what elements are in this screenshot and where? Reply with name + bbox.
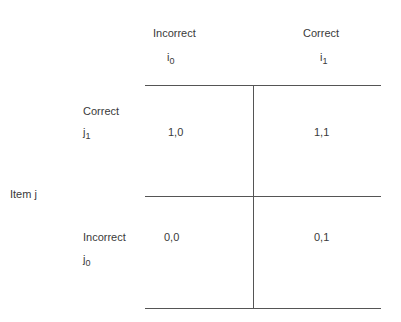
column-header-correct: Correct — [303, 27, 339, 39]
cell-0-0: 0,0 — [164, 231, 179, 243]
column-symbol-i0: i0 — [167, 51, 174, 66]
row-header-incorrect: Incorrect — [83, 231, 126, 243]
subscript-text: 0 — [169, 56, 174, 66]
grid-line-vertical — [253, 85, 254, 309]
row-header-correct: Correct — [83, 105, 119, 117]
row-symbol-j1: j1 — [83, 126, 90, 141]
subscript-text: 0 — [85, 258, 90, 268]
subscript-text: 1 — [322, 56, 327, 66]
cell-0-1: 0,1 — [314, 231, 329, 243]
grid-line-top — [145, 85, 381, 86]
row-axis-label: Item j — [10, 188, 37, 200]
grid-line-bottom — [145, 308, 381, 309]
row-symbol-j0: j0 — [83, 253, 90, 268]
column-symbol-i1: i1 — [320, 51, 327, 66]
column-header-incorrect: Incorrect — [153, 27, 196, 39]
cell-1-0: 1,0 — [168, 126, 183, 138]
grid-line-middle — [145, 196, 381, 197]
cell-1-1: 1,1 — [314, 126, 329, 138]
subscript-text: 1 — [85, 131, 90, 141]
